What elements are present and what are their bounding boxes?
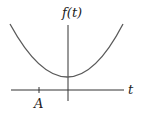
- f-axis-label: f(t): [61, 5, 82, 20]
- t-axis-label: t: [128, 82, 134, 97]
- graph: f(t) t A: [0, 0, 143, 113]
- tick-label-A: A: [33, 96, 43, 111]
- curve-f: [10, 24, 123, 77]
